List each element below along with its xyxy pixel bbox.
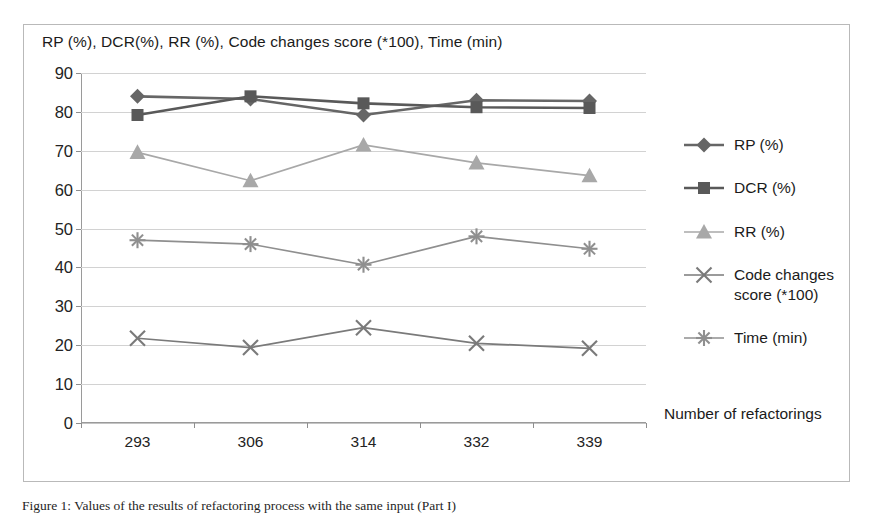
legend-diamond-icon (682, 136, 726, 154)
y-tick-label: 90 (55, 64, 73, 83)
x-axis-title: Number of refactorings (664, 405, 822, 423)
x-tick-mark (420, 423, 421, 428)
chart-title: RP (%), DCR(%), RR (%), Code changes sco… (42, 33, 503, 51)
diamond-marker (697, 138, 712, 153)
star-marker (243, 236, 259, 252)
plot-area: 0102030405060708090 293306314332339 (81, 73, 646, 423)
figure-caption: Figure 1: Values of the results of refac… (22, 498, 862, 517)
series-plot (81, 73, 646, 423)
star-marker (696, 330, 712, 346)
diamond-marker (356, 108, 371, 123)
triangle-marker (130, 144, 146, 159)
y-tick-label: 30 (55, 297, 73, 316)
legend-cross-icon (682, 266, 726, 284)
x-tick-mark (194, 423, 195, 428)
x-tick-label: 314 (351, 433, 377, 451)
x-tick-label: 332 (464, 433, 490, 451)
square-marker (245, 90, 257, 102)
chart-legend: RP (%)DCR (%)RR (%)Code changesscore (*1… (682, 135, 847, 371)
legend-square-icon (682, 179, 726, 197)
x-tick-mark (646, 423, 647, 428)
legend-label: DCR (%) (734, 178, 796, 197)
x-tick-mark (81, 423, 82, 428)
star-marker (469, 228, 485, 244)
legend-triangle-icon (682, 223, 726, 241)
legend-label: RR (%) (734, 222, 785, 241)
square-marker (358, 97, 370, 109)
gridline (81, 423, 646, 424)
diamond-marker (130, 89, 145, 104)
chart-frame: RP (%), DCR(%), RR (%), Code changes sco… (23, 24, 850, 482)
legend-label-line2: score (*100) (734, 285, 834, 304)
y-tick-label: 20 (55, 336, 73, 355)
legend-label: RP (%) (734, 135, 784, 154)
legend-label: Time (min) (734, 328, 807, 347)
y-tick-label: 0 (64, 414, 73, 433)
series-line (138, 328, 590, 349)
square-marker (584, 102, 596, 114)
y-tick-label: 60 (55, 180, 73, 199)
x-tick-label: 293 (125, 433, 151, 451)
y-tick-label: 80 (55, 102, 73, 121)
triangle-marker (356, 137, 372, 152)
y-tick-label: 50 (55, 219, 73, 238)
star-marker (356, 257, 372, 273)
square-marker (471, 101, 483, 113)
x-tick-label: 339 (577, 433, 603, 451)
x-tick-label: 306 (238, 433, 264, 451)
legend-label: Code changesscore (*100) (734, 265, 834, 304)
legend-item[interactable]: Time (min) (682, 328, 847, 347)
square-marker (698, 182, 710, 194)
star-marker (582, 241, 598, 257)
legend-item[interactable]: RP (%) (682, 135, 847, 154)
star-marker (130, 232, 146, 248)
x-tick-mark (533, 423, 534, 428)
legend-item[interactable]: DCR (%) (682, 178, 847, 197)
y-tick-label: 10 (55, 375, 73, 394)
legend-star-icon (682, 329, 726, 347)
legend-item[interactable]: RR (%) (682, 222, 847, 241)
y-tick-label: 70 (55, 141, 73, 160)
x-tick-mark (307, 423, 308, 428)
legend-item[interactable]: Code changesscore (*100) (682, 265, 847, 304)
square-marker (132, 109, 144, 121)
y-tick-label: 40 (55, 258, 73, 277)
